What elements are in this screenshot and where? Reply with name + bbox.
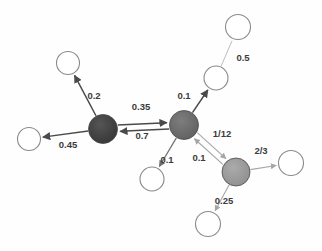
edge-weight-label: 0.35 [132,101,151,112]
edge-weight-label: 0.1 [192,152,206,163]
diagram-canvas: 0.20.450.350.70.10.10.11/122/30.250.5 [0,0,322,251]
graph-node-filled-light [222,158,250,186]
edge-weight-label: 0.2 [87,90,100,101]
nodes-layer [18,15,304,237]
graph-node-open [57,52,80,75]
graph-svg: 0.20.450.350.70.10.10.11/122/30.250.5 [0,0,322,251]
graph-node-filled-dark [89,115,118,144]
edge-weight-label: 0.1 [160,154,174,165]
edge-weight-label: 0.5 [236,52,250,63]
edge-weight-label: 2/3 [254,145,267,156]
edge-weight-label: 0.45 [59,139,78,150]
graph-edge [250,165,276,169]
graph-node-open [196,212,221,237]
edge-weight-label: 1/12 [213,128,232,139]
graph-node-filled-medium [170,111,199,140]
graph-node-open [226,15,251,40]
edge-weight-label: 0.25 [215,195,234,206]
edge-weight-label: 0.7 [135,130,148,141]
edge-weight-label: 0.1 [177,90,191,101]
graph-node-open [279,151,304,176]
graph-node-open [140,167,164,191]
graph-edge [118,123,167,125]
graph-edge [221,41,232,67]
graph-edge [43,131,88,137]
graph-edge [192,90,207,113]
graph-node-open [18,128,41,151]
graph-node-open [204,66,228,90]
